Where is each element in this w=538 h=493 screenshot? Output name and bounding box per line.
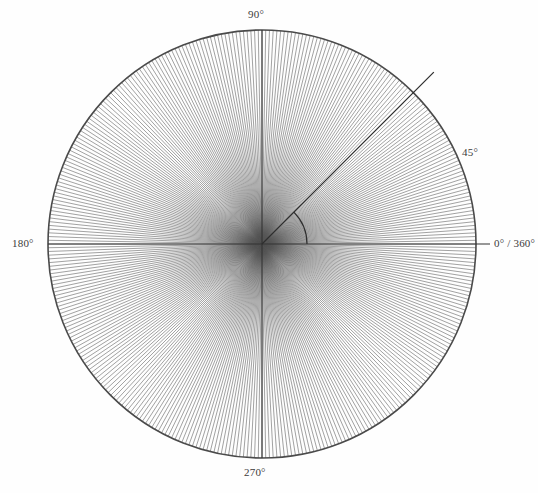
polar-plot-canvas bbox=[0, 0, 538, 493]
axis-label-90deg: 90° bbox=[248, 8, 264, 20]
polar-diagram: 90° 270° 180° 0° / 360° 45° bbox=[0, 0, 538, 493]
axis-label-45deg: 45° bbox=[462, 146, 478, 158]
axis-label-180deg: 180° bbox=[12, 237, 34, 249]
axis-label-0-360deg: 0° / 360° bbox=[494, 237, 535, 249]
axis-label-270deg: 270° bbox=[244, 466, 266, 478]
